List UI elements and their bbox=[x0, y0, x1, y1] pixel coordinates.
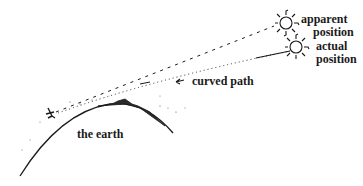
label-actual-line2: position bbox=[316, 53, 357, 66]
curved-light-path-end bbox=[256, 51, 290, 58]
label-curved-path: curved path bbox=[192, 75, 254, 88]
arrow-icon bbox=[176, 79, 184, 84]
label-apparent-position: apparent position bbox=[301, 13, 354, 39]
curved-light-path-start bbox=[140, 82, 150, 84]
dashed-line-of-sight bbox=[56, 26, 274, 112]
label-apparent-line2: position bbox=[301, 26, 354, 39]
apparent-sun-icon bbox=[275, 10, 299, 36]
curved-light-path bbox=[58, 51, 290, 113]
mountain bbox=[98, 99, 165, 126]
observer-icon bbox=[46, 108, 55, 118]
label-actual-position: actual position bbox=[316, 40, 357, 66]
label-the-earth: the earth bbox=[77, 128, 123, 141]
